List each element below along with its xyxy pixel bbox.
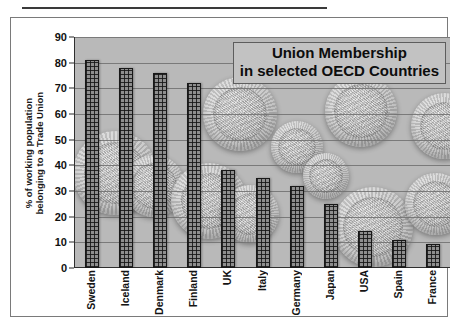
bar-france (426, 244, 440, 268)
x-axis-label-france: France (425, 270, 439, 330)
bar-japan (324, 204, 338, 268)
x-axis-label-japan: Japan (323, 270, 337, 330)
chart-title-line-1: Union Membership (240, 45, 439, 62)
x-axis-label-iceland: Iceland (118, 270, 132, 330)
x-axis-tick-labels: SwedenIcelandDenmarkFinlandUKItalyGerman… (74, 270, 449, 332)
bar-uk (221, 170, 235, 268)
x-axis-label-text: Sweden (85, 270, 97, 310)
y-axis-tick-40: 40 (55, 159, 67, 171)
bar-iceland (119, 68, 133, 268)
x-axis-label-text: Japan (324, 270, 336, 300)
y-axis-tick-60: 60 (55, 108, 67, 120)
x-axis-label-finland: Finland (186, 270, 200, 330)
y-axis-tick-50: 50 (55, 134, 67, 146)
chart-title: Union Membership in selected OECD Countr… (233, 42, 446, 84)
coin-background-8 (325, 75, 397, 147)
x-axis-label-text: Italy (256, 270, 268, 291)
coin-background-10 (411, 93, 450, 159)
x-axis-label-spain: Spain (391, 270, 405, 330)
top-divider-rule (22, 7, 327, 9)
bar-denmark (153, 73, 167, 268)
y-axis-title-line-1: % of working population (24, 98, 34, 208)
bar-italy (256, 178, 270, 268)
bar-finland (187, 83, 201, 268)
y-axis-tick-90: 90 (55, 31, 67, 43)
y-axis-tick-20: 20 (55, 211, 67, 223)
x-axis-label-text: Finland (187, 270, 199, 307)
x-axis-label-text: Germany (290, 270, 302, 316)
x-axis-label-sweden: Sweden (84, 270, 98, 330)
x-axis-label-text: France (426, 270, 438, 304)
x-axis-label-uk: UK (220, 270, 234, 330)
chart-title-line-2: in selected OECD Countries (240, 63, 439, 80)
x-axis-label-denmark: Denmark (152, 270, 166, 330)
y-axis-tick-30: 30 (55, 185, 67, 197)
x-axis-label-text: Iceland (119, 270, 131, 306)
y-axis-tick-10: 10 (55, 236, 67, 248)
bar-germany (290, 186, 304, 268)
y-axis-tick-80: 80 (55, 57, 67, 69)
plot-area: Union Membership in selected OECD Countr… (74, 37, 450, 268)
x-axis-label-italy: Italy (255, 270, 269, 330)
x-axis-label-text: Denmark (153, 270, 165, 315)
x-axis-label-text: UK (221, 270, 233, 285)
coin-background-7 (303, 153, 349, 199)
y-axis-tick-0: 0 (61, 262, 67, 274)
bar-spain (392, 240, 406, 268)
chart-figure-frame: % of working population belonging to a T… (10, 17, 448, 317)
x-axis-label-usa: USA (357, 270, 371, 330)
x-axis-label-text: Spain (392, 270, 404, 299)
bar-sweden (85, 60, 99, 268)
x-axis-label-text: USA (358, 270, 370, 292)
gridline-90 (75, 37, 450, 38)
y-axis-tick-labels: 0102030405060708090 (41, 37, 67, 268)
bar-usa (358, 231, 372, 268)
x-axis-label-germany: Germany (289, 270, 303, 330)
y-axis-tick-70: 70 (55, 82, 67, 94)
